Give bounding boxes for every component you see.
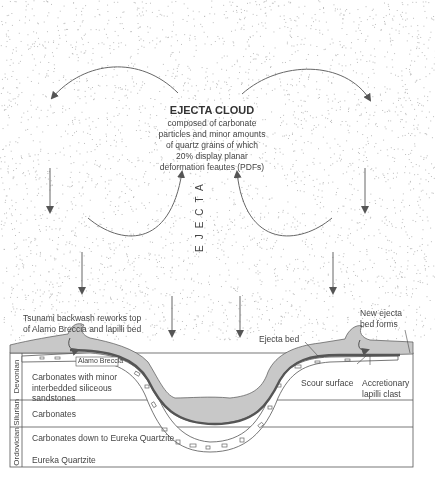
layer-label-silurian: Carbonates: [32, 409, 76, 420]
tsunami-backwash-label: Tsunami backwash reworks top of Alamo Br…: [23, 313, 141, 334]
layer-label-eureka: Eureka Quartzite: [32, 455, 96, 466]
ejecta-bed-label: Ejecta bed: [259, 334, 299, 345]
layer-label-devonian: Carbonates with minor interbedded silice…: [32, 372, 117, 404]
arrow-up-left-icon: [88, 172, 182, 236]
arrow-top-right-icon: [242, 69, 370, 100]
ejecta-vertical-label: EJECTA: [194, 178, 205, 252]
new-ejecta-bed-label: New ejecta bed forms: [360, 308, 402, 329]
ejecta-cloud-title: EJECTA CLOUD: [120, 104, 304, 116]
ejecta-cloud-description: composed of carbonate particles and mino…: [120, 118, 304, 173]
arrow-top-left-icon: [52, 67, 178, 98]
layer-label-ordovician-upper: Carbonates down to Eureka Quartzite: [32, 433, 174, 444]
arrow-up-right-icon: [237, 172, 332, 236]
diagram-graphics: [0, 0, 435, 480]
alamo-breccia-label: Alamo Breccia: [78, 356, 123, 367]
period-ordovician: Ordovician: [12, 425, 21, 469]
scour-surface-label: Scour surface: [301, 378, 353, 389]
accretionary-lapilli-label: Accretionary lapilli clast: [362, 378, 409, 399]
